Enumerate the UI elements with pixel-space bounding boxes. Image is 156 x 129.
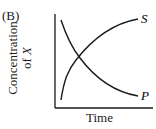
series-s-label: S [141,11,148,26]
series-s-curve [61,19,138,100]
chart-plot: S P [0,0,156,129]
series-p-curve [61,20,138,96]
x-axis-label: Time [86,110,113,126]
series-p-label: P [140,88,149,103]
